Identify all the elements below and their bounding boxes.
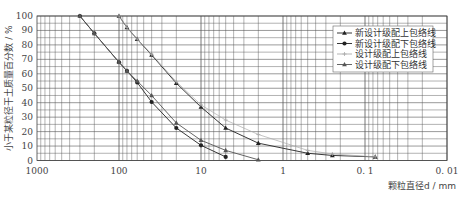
y-tick-label: 0 — [27, 156, 33, 166]
x-tick-label: 1 — [280, 166, 286, 176]
series-4 — [77, 13, 260, 161]
y-tick-label: 40 — [22, 98, 34, 108]
y-tick-label: 30 — [22, 112, 34, 122]
series-layer — [77, 13, 377, 161]
grading-curve-chart: 0102030405060708090100 10001001010. 10. … — [0, 0, 472, 201]
x-tick-label: 0. 01 — [436, 166, 459, 176]
legend-label: 新设计级配下包络线 — [355, 38, 436, 49]
y-tick-label: 70 — [22, 54, 34, 64]
y-tick-label: 80 — [22, 40, 34, 50]
x-axis-label: 颗粒直径d / mm — [388, 180, 456, 191]
x-axis-ticks: 10001001010. 10. 01 — [26, 166, 459, 176]
x-tick-label: 10 — [195, 166, 207, 176]
y-axis-ticks: 0102030405060708090100 — [16, 11, 33, 166]
y-tick-label: 60 — [22, 69, 34, 79]
y-tick-label: 10 — [22, 141, 34, 151]
series-2 — [78, 14, 228, 159]
y-tick-label: 90 — [22, 25, 34, 35]
x-tick-label: 1000 — [26, 166, 49, 176]
x-tick-label: 100 — [110, 166, 127, 176]
y-tick-label: 20 — [22, 127, 34, 137]
legend-label: 新设计级配上包络线 — [355, 27, 436, 38]
y-tick-label: 100 — [16, 11, 33, 21]
x-tick-label: 0. 1 — [356, 166, 373, 176]
y-tick-label: 50 — [22, 83, 34, 93]
y-axis-label: 小于某粒径干土质量百分数 / % — [3, 25, 14, 151]
legend-label: 设计级配上包络线 — [355, 48, 427, 59]
legend-label: 设计级配下包络线 — [355, 59, 427, 70]
legend: 新设计级配上包络线新设计级配下包络线设计级配上包络线设计级配下包络线 — [333, 26, 436, 72]
